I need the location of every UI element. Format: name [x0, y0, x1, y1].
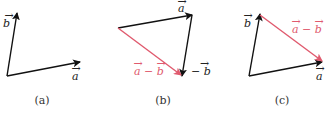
vec-arrow-b: →	[5, 9, 14, 22]
caption-b: (b)	[155, 94, 171, 107]
vec-arrow-a: →	[134, 57, 143, 70]
panel-c: b → a → a − b → → (c)	[244, 9, 325, 107]
panel-b: a → − b → a − b → → (b)	[118, 0, 211, 107]
vector-a-arrow	[7, 62, 80, 76]
vec-arrow-b: →	[315, 15, 324, 28]
vec-arrow-a: →	[316, 62, 325, 75]
vec-arrow-b: →	[200, 57, 209, 70]
panel-a: b → a → (a)	[3, 9, 81, 107]
vector-a-arrow	[249, 62, 322, 76]
vec-arrow-b: →	[244, 9, 253, 22]
vec-arrow-b: →	[157, 57, 166, 70]
vec-arrow-a: →	[292, 15, 301, 28]
caption-a: (a)	[34, 94, 49, 107]
vec-arrow-a: →	[178, 0, 187, 8]
caption-c: (c)	[275, 94, 290, 107]
vec-arrow-a: →	[72, 62, 81, 75]
vector-subtraction-diagram: b → a → (a) a → − b → a − b → → (b) b → …	[0, 0, 326, 113]
vector-a-arrow	[118, 15, 192, 28]
